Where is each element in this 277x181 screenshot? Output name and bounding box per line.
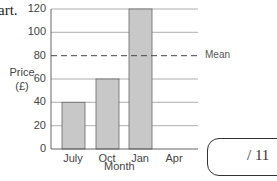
bar-jan [129,9,152,149]
y-tick-40: 40 [24,95,46,107]
y-axis-label-line2: (£) [6,79,38,93]
x-axis-label: Month [104,160,135,172]
marks-total: / 11 [247,147,269,164]
y-tick-0: 0 [24,142,46,154]
y-tick-100: 100 [24,25,46,37]
y-tick-20: 20 [24,119,46,131]
bar-oct [96,79,119,149]
y-axis-label: Price (£) [6,65,38,93]
y-axis-label-line1: Price [6,65,38,79]
y-tick-80: 80 [24,49,46,61]
x-tick-july: July [56,152,90,164]
x-tick-apr: Apr [157,152,191,164]
y-tick-120: 120 [24,2,46,14]
mean-label: Mean [205,49,230,60]
bar-july [62,102,85,149]
